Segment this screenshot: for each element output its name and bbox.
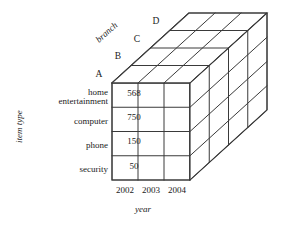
branch-tick-d: D [149, 17, 163, 27]
cell-value-home-entertainment-2002: 568 [115, 89, 153, 98]
cell-value-security-2002: 50 [115, 162, 153, 171]
axis-title-year: year [118, 205, 168, 214]
branch-tick-c: C [130, 35, 144, 45]
row-label-security: security [30, 165, 108, 174]
cell-value-computer-2002: 750 [115, 113, 153, 122]
branch-tick-b: B [111, 52, 125, 62]
year-tick-2004: 2004 [162, 186, 192, 195]
axis-title-item-type: item type [15, 99, 24, 155]
row-label-phone: phone [30, 141, 108, 150]
cell-value-phone-2002: 150 [115, 137, 153, 146]
row-label-line-2: entertainment [30, 97, 108, 106]
row-label-computer: computer [30, 117, 108, 126]
branch-tick-a: A [92, 70, 106, 80]
data-cube-diagram: home entertainment computer phone securi… [0, 0, 281, 234]
row-label-home-entertainment: home entertainment [30, 88, 108, 107]
